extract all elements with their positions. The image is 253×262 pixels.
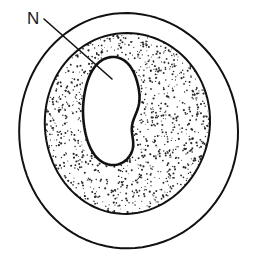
figure-background <box>0 0 253 262</box>
nucleus-label: N <box>27 9 39 28</box>
figure-root: N <box>0 0 253 262</box>
cell-diagram-svg: N <box>0 0 253 262</box>
